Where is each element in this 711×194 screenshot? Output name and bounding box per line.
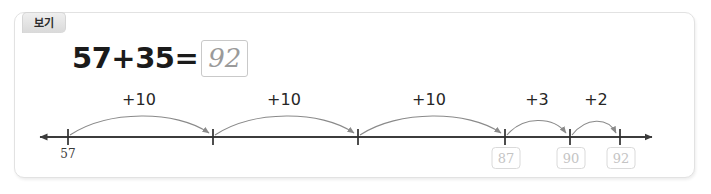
equation-answer-value: 92 bbox=[208, 45, 241, 71]
tick-answer-value-90: 90 bbox=[563, 152, 580, 165]
tab-bogi-label: 보기 bbox=[34, 18, 54, 29]
screenshot-root: 보기 57+35= 92 bbox=[0, 0, 711, 194]
equation-answer-box[interactable]: 92 bbox=[201, 40, 248, 77]
jump-label-4: +3 bbox=[525, 92, 549, 108]
jump-label-2: +10 bbox=[267, 92, 301, 108]
tick-answer-value-87: 87 bbox=[498, 152, 515, 165]
tick-answer-box-87[interactable]: 87 bbox=[492, 147, 521, 169]
jump-label-5: +2 bbox=[584, 92, 608, 108]
jump-label-3: +10 bbox=[412, 92, 446, 108]
equation-expression: 57+35= bbox=[72, 44, 198, 73]
jump-label-1: +10 bbox=[122, 92, 156, 108]
tab-bogi[interactable]: 보기 bbox=[22, 12, 66, 33]
tick-answer-box-92[interactable]: 92 bbox=[607, 147, 636, 169]
tick-answer-value-92: 92 bbox=[613, 152, 630, 165]
equation-row: 57+35= 92 bbox=[72, 37, 248, 79]
number-line-start-label: 57 bbox=[60, 148, 75, 160]
tick-answer-box-90[interactable]: 90 bbox=[557, 147, 586, 169]
